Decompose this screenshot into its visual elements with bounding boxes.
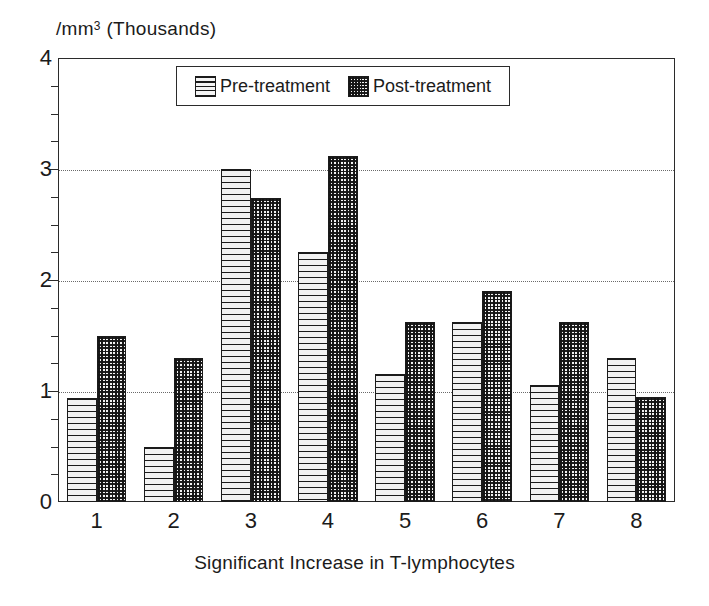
y-axis-tick-label: 0	[12, 491, 52, 513]
bar-post-treatment	[328, 156, 358, 502]
bars-layer	[58, 58, 675, 502]
y-axis-unit-label: /mm3 (Thousands)	[56, 18, 216, 40]
legend-entry-pre-treatment: Pre-treatment	[195, 76, 330, 97]
x-axis-tick-label: 2	[168, 508, 180, 534]
x-axis-tick-labels: 12345678	[58, 508, 675, 540]
bar-pre-treatment	[144, 447, 174, 503]
x-axis-tick-label: 7	[553, 508, 565, 534]
bar-group	[367, 58, 444, 502]
x-axis-tick-label: 4	[322, 508, 334, 534]
y-axis-tick-label: 3	[12, 158, 52, 180]
x-axis-tick-label: 6	[476, 508, 488, 534]
y-axis-unit-tail: (Thousands)	[101, 18, 217, 39]
y-axis-tick-label: 4	[12, 47, 52, 69]
y-axis-tick-label: 2	[12, 269, 52, 291]
bar-group	[289, 58, 366, 502]
bar-pre-treatment	[375, 374, 405, 502]
legend-swatch-pre-treatment-icon	[195, 76, 216, 97]
bar-pre-treatment	[530, 385, 560, 502]
y-axis-tick-labels: 01234	[8, 58, 52, 502]
bar-pre-treatment	[221, 169, 251, 502]
bar-pre-treatment	[298, 252, 328, 502]
bar-post-treatment	[251, 198, 281, 502]
legend-label-post-treatment: Post-treatment	[373, 76, 491, 97]
x-axis-tick-label: 8	[630, 508, 642, 534]
bar-group	[135, 58, 212, 502]
bar-post-treatment	[559, 322, 589, 502]
bar-pre-treatment	[607, 358, 637, 502]
x-axis-tick-label: 3	[245, 508, 257, 534]
bar-post-treatment	[174, 358, 204, 502]
bar-pre-treatment	[452, 322, 482, 502]
bar-group	[521, 58, 598, 502]
bar-chart: /mm3 (Thousands) 01234 Pre-treatment Pos…	[0, 0, 709, 606]
bar-group	[598, 58, 675, 502]
legend-swatch-post-treatment-icon	[348, 76, 369, 97]
legend: Pre-treatment Post-treatment	[176, 66, 510, 106]
x-axis-tick-label: 1	[90, 508, 102, 534]
bar-post-treatment	[405, 322, 435, 502]
y-axis-unit-superscript: 3	[94, 19, 101, 33]
bar-pre-treatment	[67, 398, 97, 502]
legend-entry-post-treatment: Post-treatment	[348, 76, 491, 97]
bar-group	[444, 58, 521, 502]
y-axis-tick-label: 1	[12, 380, 52, 402]
y-axis-unit-main: /mm	[56, 18, 94, 39]
x-axis-title: Significant Increase in T-lymphocytes	[0, 552, 709, 574]
x-axis-tick-label: 5	[399, 508, 411, 534]
bar-post-treatment	[482, 291, 512, 502]
bar-group	[212, 58, 289, 502]
bar-group	[58, 58, 135, 502]
bar-post-treatment	[97, 336, 127, 503]
bar-post-treatment	[636, 397, 666, 502]
legend-label-pre-treatment: Pre-treatment	[220, 76, 330, 97]
